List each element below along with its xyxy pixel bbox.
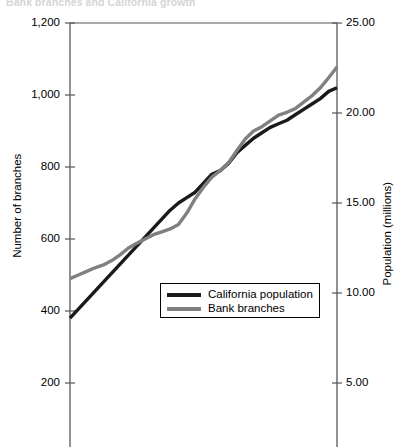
tick-marks bbox=[65, 23, 342, 383]
legend-item-bank-branches: Bank branches bbox=[167, 302, 319, 315]
right-tick-label: 20.00 bbox=[346, 107, 375, 119]
legend-swatch-california-population bbox=[167, 293, 201, 297]
legend-swatch-bank-branches bbox=[167, 307, 201, 311]
axis-lines bbox=[70, 23, 337, 447]
series-lines bbox=[70, 67, 337, 318]
right-tick-label: 10.00 bbox=[346, 287, 375, 299]
left-axis-title: Number of branches bbox=[12, 136, 24, 276]
series-line bbox=[70, 67, 337, 279]
left-tick-label: 1,200 bbox=[8, 17, 60, 29]
right-tick-label: 5.00 bbox=[346, 377, 368, 389]
legend-item-california-population: California population bbox=[167, 288, 319, 301]
legend-label-bank-branches: Bank branches bbox=[208, 303, 285, 315]
right-tick-label: 25.00 bbox=[346, 17, 375, 29]
right-axis-title: Population (millions) bbox=[382, 159, 394, 309]
legend-label-california-population: California population bbox=[208, 289, 313, 301]
chart-figure: Bank branches and California growth 2004… bbox=[0, 0, 407, 447]
chart-legend: California population Bank branches bbox=[160, 283, 320, 318]
left-tick-label: 400 bbox=[8, 305, 60, 317]
left-tick-label: 200 bbox=[8, 377, 60, 389]
right-tick-label: 15.00 bbox=[346, 197, 375, 209]
left-tick-label: 1,000 bbox=[8, 89, 60, 101]
